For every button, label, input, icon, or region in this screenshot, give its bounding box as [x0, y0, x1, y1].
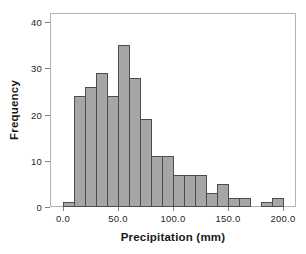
y-axis-tick	[45, 207, 50, 208]
x-tick-label: 100.0	[153, 213, 193, 224]
x-axis-tick	[63, 207, 64, 211]
x-tick-label: 50.0	[98, 213, 138, 224]
x-tick-label: 200.0	[263, 213, 303, 224]
y-tick-label: 40	[16, 17, 42, 28]
x-axis-tick	[283, 207, 284, 211]
x-axis-tick	[228, 207, 229, 211]
x-tick-label: 150.0	[208, 213, 248, 224]
plot-area	[50, 13, 296, 207]
histogram-figure: 0102030400.050.0100.0150.0200.0 Frequenc…	[0, 0, 306, 254]
y-tick-label: 0	[16, 202, 42, 213]
x-tick-label: 0.0	[43, 213, 83, 224]
x-axis-tick	[173, 207, 174, 211]
x-axis-tick	[118, 207, 119, 211]
y-axis-title: Frequency	[8, 80, 20, 140]
x-axis-title: Precipitation (mm)	[121, 231, 226, 243]
y-tick-label: 10	[16, 156, 42, 167]
y-tick-label: 30	[16, 63, 42, 74]
